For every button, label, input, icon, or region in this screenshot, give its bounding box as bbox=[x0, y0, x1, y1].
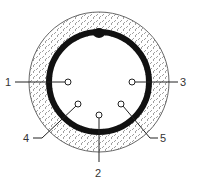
pin-1 bbox=[65, 79, 71, 85]
pin-label-1: 1 bbox=[5, 76, 11, 88]
key-notch bbox=[93, 28, 105, 38]
pin-label-4: 4 bbox=[23, 132, 29, 144]
pin-3 bbox=[129, 79, 135, 85]
pin-label-5: 5 bbox=[160, 132, 166, 144]
pin-label-3: 3 bbox=[180, 76, 186, 88]
pin-label-2: 2 bbox=[95, 167, 101, 179]
din-connector-diagram: 1 3 4 5 2 bbox=[0, 0, 198, 186]
pin-2 bbox=[96, 112, 102, 118]
pin-5 bbox=[118, 101, 124, 107]
pin-4 bbox=[75, 101, 81, 107]
